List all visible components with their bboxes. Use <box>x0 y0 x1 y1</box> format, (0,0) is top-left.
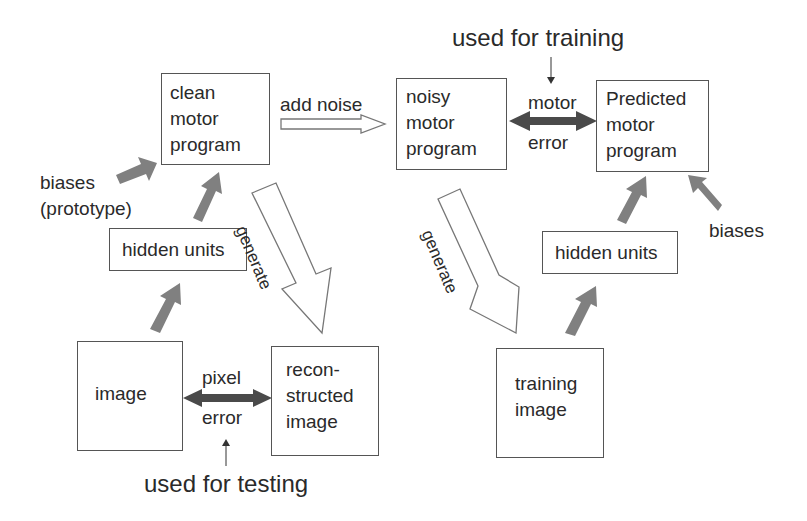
hidden-units-box-right: hidden units <box>542 231 678 274</box>
add-noise-label: add noise <box>280 92 362 118</box>
hidden-units-label-left: hidden units <box>122 237 224 263</box>
used-for-testing-label: used for testing <box>144 470 308 498</box>
hidden-to-clean-arrow <box>193 172 222 222</box>
motor-error-label-bottom: error <box>528 130 568 156</box>
training-image-label: training image <box>515 371 577 423</box>
clean-motor-program-box: clean motor program <box>161 73 270 165</box>
reconstructed-image-box: recon- structed image <box>271 346 379 456</box>
used-for-training-label: used for training <box>452 24 624 52</box>
hidden-units-box-left: hidden units <box>109 228 247 271</box>
biases-label-right: biases <box>709 218 764 244</box>
noisy-motor-program-box: noisy motor program <box>396 78 507 170</box>
biases-prototype-label: biases (prototype) <box>40 170 132 222</box>
image-label: image <box>95 381 147 407</box>
predicted-motor-program-label: Predicted motor program <box>606 86 686 164</box>
testing-pointer-arrow <box>222 439 230 446</box>
training-pointer-arrow <box>547 77 555 84</box>
biases-arrow-right <box>688 175 722 211</box>
predicted-motor-program-box: Predicted motor program <box>596 80 709 172</box>
pixel-error-label-top: pixel <box>202 365 241 391</box>
clean-motor-program-label: clean motor program <box>170 80 241 158</box>
reconstructed-image-label: recon- structed image <box>286 357 354 435</box>
training-image-box: training image <box>496 348 604 458</box>
training-to-hidden-arrow <box>565 286 597 336</box>
image-to-hidden-arrow <box>150 283 181 333</box>
hidden-to-predicted-arrow <box>617 176 647 224</box>
hidden-units-label-right: hidden units <box>555 240 657 266</box>
noisy-motor-program-label: noisy motor program <box>406 84 477 162</box>
motor-error-label-top: motor <box>528 90 577 116</box>
pixel-error-label-bottom: error <box>202 405 242 431</box>
image-box: image <box>77 341 183 451</box>
